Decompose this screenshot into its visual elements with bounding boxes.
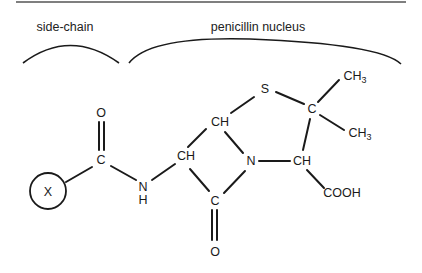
atom-methyl-lower: CH3: [348, 127, 371, 140]
atom-ring-nitrogen: N: [246, 155, 255, 168]
methyl-upper-subscript: 3: [362, 75, 367, 85]
atom-ring-ch-right: CH: [293, 155, 311, 168]
atom-carboxyl: COOH: [323, 187, 361, 200]
atom-amide-carbon: C: [96, 154, 105, 167]
side-chain-caption: side-chain: [37, 21, 94, 34]
methyl-lower-main: CH: [348, 126, 366, 140]
atom-sulfur: S: [261, 83, 269, 96]
atom-carbonyl-oxygen: O: [96, 107, 106, 120]
nucleus-caption: penicillin nucleus: [211, 21, 306, 34]
nucleus-brace: [129, 39, 401, 64]
atom-x-group: X: [44, 186, 52, 199]
side-chain-brace: [23, 46, 119, 64]
atom-lactam-carbon: C: [210, 195, 219, 208]
methyl-lower-subscript: 3: [367, 132, 372, 142]
atom-methyl-upper: CH3: [343, 70, 366, 83]
atom-lactam-oxygen: O: [210, 246, 220, 259]
atom-gem-carbon: C: [307, 103, 316, 116]
atom-amide-hydrogen: H: [138, 194, 147, 207]
atom-ring-ch-top: CH: [211, 116, 229, 129]
atom-amide-nitrogen: N: [138, 181, 147, 194]
penicillin-structure-diagram: side-chain penicillin nucleus X O C N H …: [0, 0, 422, 273]
atom-alpha-ch: CH: [177, 150, 195, 163]
methyl-upper-main: CH: [343, 69, 361, 83]
